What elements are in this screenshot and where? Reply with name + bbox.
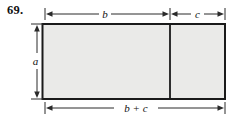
rectangle-diagram: b c a b + c bbox=[0, 0, 230, 118]
label-a: a bbox=[33, 55, 39, 67]
main-rectangle bbox=[43, 24, 226, 99]
label-c: c bbox=[195, 8, 200, 20]
arrowhead-a-up-icon bbox=[34, 25, 40, 32]
label-b-plus-c: b + c bbox=[124, 102, 147, 114]
label-b: b bbox=[102, 8, 108, 20]
arrowhead-bc-left-icon bbox=[46, 105, 53, 111]
arrowhead-b-right-icon bbox=[163, 11, 170, 17]
arrowhead-c-left-icon bbox=[171, 11, 178, 17]
arrowhead-c-right-icon bbox=[218, 11, 225, 17]
arrowhead-a-down-icon bbox=[34, 92, 40, 99]
arrowhead-b-left-icon bbox=[46, 11, 53, 17]
figure-canvas: 69. b c a b + c bbox=[0, 0, 230, 118]
arrowhead-bc-right-icon bbox=[218, 105, 225, 111]
